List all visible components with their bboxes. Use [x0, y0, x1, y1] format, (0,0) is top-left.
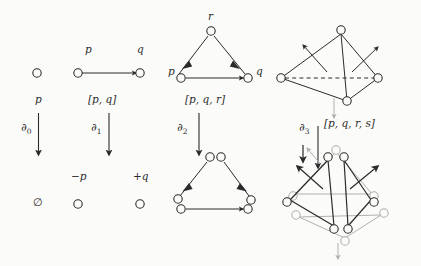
tet-edge-top-bottom: [341, 34, 347, 101]
boundary-vertex-plus-q: [136, 200, 144, 208]
operator-label-d0: ∂0: [21, 122, 31, 136]
label-triangle-simplex: [p, q, r]: [185, 94, 225, 105]
triangle-boundary-group: [174, 153, 255, 213]
boundary-edge-rp-arrowhead: [183, 183, 193, 192]
tet-boundary-normal-right: [350, 166, 378, 189]
boundary-vertex-minus-p: [74, 200, 82, 208]
tet-vertex-bottom: [343, 97, 351, 105]
vertex-p-edge: [74, 69, 82, 77]
label-empty-set: ∅: [33, 197, 43, 208]
vertex-r-triangle: [207, 27, 215, 35]
tri-edge-rp-arrowhead: [182, 61, 192, 70]
label-plus-q: +q: [133, 171, 149, 182]
tet-boundary-face-back: [289, 146, 378, 200]
vertex-p-point: [33, 69, 41, 77]
tet-edge-left-bottom: [281, 78, 347, 101]
edge-simplex-group: [74, 69, 144, 77]
tet-boundary-normal-back: [307, 148, 322, 166]
boundary-edge-qr-end: [247, 196, 255, 204]
tet-edge-top-left: [281, 34, 341, 78]
tet-edge-right-bottom: [347, 78, 378, 101]
label-q-edge: q: [137, 44, 144, 55]
label-q-triangle: q: [256, 66, 263, 77]
operator-label-d3: ∂3: [299, 122, 309, 136]
label-edge-simplex: [p, q]: [88, 94, 116, 105]
figure-canvas: p q r p q p [p, q] [p, q, r] [p, q, r, s…: [0, 0, 421, 266]
diagram-vectors: [0, 0, 421, 266]
boundary-edge-rp-end: [174, 195, 182, 203]
tet-vertex-right: [374, 74, 382, 82]
tet-boundary-face-bottom: [292, 209, 388, 259]
boundary-edge-pq-end: [244, 205, 252, 213]
vertex-q-edge: [136, 69, 144, 77]
tet-normal-left: [303, 45, 327, 72]
operator-d0-subscript: 0: [27, 127, 32, 136]
tet-normal-right: [352, 47, 378, 72]
label-minus-p: −p: [71, 171, 87, 182]
boundary-edge-qr-arrowhead: [237, 183, 248, 192]
operator-d2-subscript: 2: [183, 127, 188, 136]
operator-d1-subscript: 1: [97, 127, 102, 136]
boundary-edge-rp-start: [206, 153, 214, 161]
tri-edge-qr: [214, 36, 245, 74]
tet-vertex-left: [277, 74, 285, 82]
label-point-simplex: p: [35, 94, 42, 105]
vertex-p-triangle: [177, 74, 185, 82]
operator-label-d2: ∂2: [177, 122, 187, 136]
label-tetrahedron-simplex: [p, q, r, s]: [324, 118, 375, 129]
label-r-triangle: r: [208, 11, 213, 22]
triangle-simplex-group: [177, 27, 252, 82]
boundary-edge-qr-start: [217, 153, 225, 161]
edge-boundary-group: [74, 200, 144, 208]
operator-label-d1: ∂1: [91, 122, 101, 136]
tetrahedron-boundary-group: [283, 145, 388, 259]
label-p-triangle: p: [168, 66, 175, 77]
tet-vertex-top: [337, 26, 345, 34]
tet-boundary-face-left: [283, 145, 338, 233]
point-simplex-group: [33, 69, 41, 77]
vertex-q-triangle: [244, 74, 252, 82]
tetrahedron-simplex-group: [277, 26, 382, 118]
boundary-edge-pq-start: [177, 205, 185, 213]
label-p-edge: p: [85, 44, 92, 55]
operator-d3-subscript: 3: [305, 127, 310, 136]
tet-edge-top-right: [341, 34, 378, 78]
